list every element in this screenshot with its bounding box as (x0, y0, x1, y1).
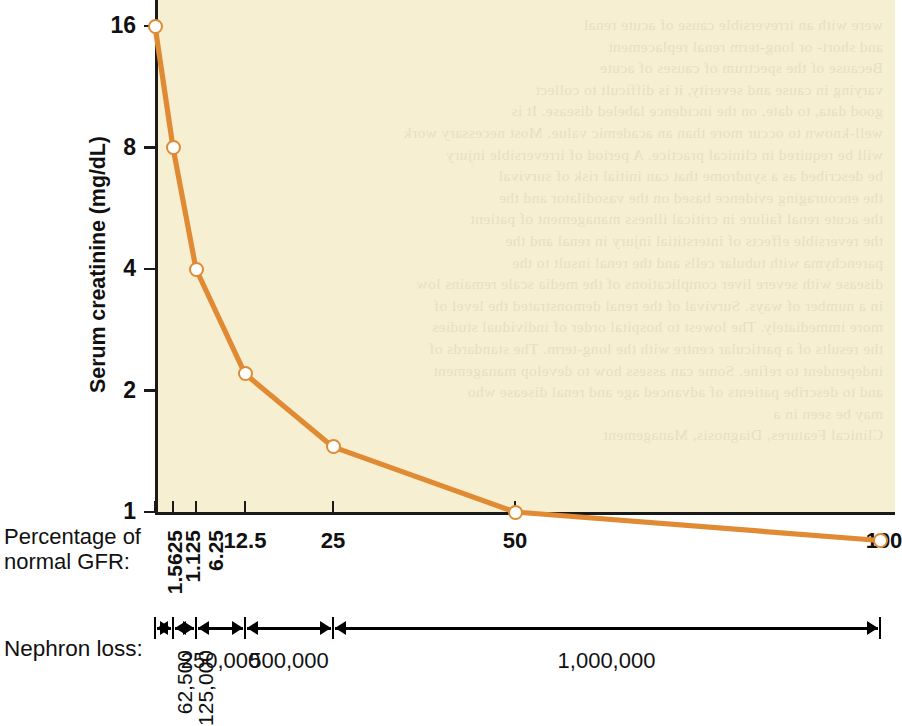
data-point-marker (166, 140, 181, 155)
data-point-marker (148, 19, 163, 34)
data-point-marker (508, 505, 523, 520)
data-point-marker (326, 439, 341, 454)
data-point-marker (873, 533, 888, 548)
data-point-marker (238, 366, 253, 381)
data-point-marker (189, 262, 204, 277)
